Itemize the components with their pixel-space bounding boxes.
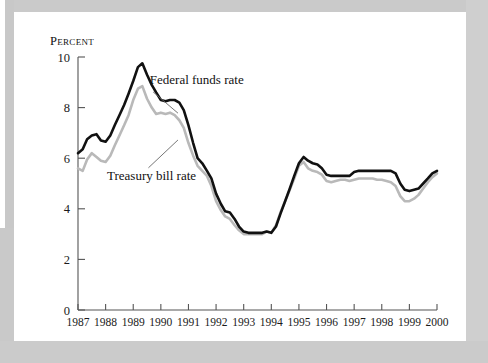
y-axis-unit-label: Percent <box>50 34 94 48</box>
x-axis: 1987198819891990199119921993199419951996… <box>67 304 449 328</box>
x-axis-tick-label: 1999 <box>398 316 421 328</box>
y-axis-tick-label: 6 <box>64 152 70 166</box>
series-annotations: Federal funds rateTreasury bill rate <box>107 72 244 183</box>
x-axis-tick-label: 1992 <box>205 316 228 328</box>
annotation-treasury-bill-label: Treasury bill rate <box>107 168 196 183</box>
mat-band-right <box>466 0 488 363</box>
annotation-federal-funds-label: Federal funds rate <box>150 72 244 87</box>
y-axis-tick-label: 8 <box>64 101 70 115</box>
data-series-group <box>78 63 437 234</box>
x-axis-tick-label: 1997 <box>343 316 366 328</box>
x-axis-tick-label: 2000 <box>426 316 449 328</box>
mat-band-left-narrow <box>5 0 14 232</box>
x-axis-tick-label: 1995 <box>287 316 310 328</box>
series-line <box>78 86 437 234</box>
x-axis-tick-label: 1996 <box>315 316 338 328</box>
x-axis-tick-label: 1998 <box>370 316 393 328</box>
x-axis-tick-label: 1989 <box>122 316 145 328</box>
x-axis-tick-label: 1993 <box>232 316 255 328</box>
y-axis: 0246810 <box>58 51 86 318</box>
figure-page: Percent 0246810 198719881989199019911992… <box>14 12 466 341</box>
y-axis-tick-label: 4 <box>64 202 71 216</box>
y-axis-tick-label: 2 <box>64 253 70 267</box>
mat-band-top <box>5 0 488 12</box>
annotation-treasury-bill-leader <box>148 140 178 168</box>
axis-unit-label-group: Percent <box>50 34 94 48</box>
line-chart: Percent 0246810 198719881989199019911992… <box>14 12 466 341</box>
series-line <box>78 63 437 233</box>
x-axis-tick-label: 1994 <box>260 316 283 328</box>
annotation-federal-funds-leader <box>153 92 178 113</box>
y-axis-tick-label: 10 <box>58 51 71 65</box>
x-axis-tick-label: 1990 <box>149 316 172 328</box>
x-axis-tick-label: 1991 <box>177 316 200 328</box>
x-axis-tick-label: 1987 <box>67 316 90 328</box>
mat-band-bottom <box>0 341 488 363</box>
screenshot-root: Percent 0246810 198719881989199019911992… <box>0 0 488 363</box>
x-axis-tick-label: 1988 <box>94 316 117 328</box>
